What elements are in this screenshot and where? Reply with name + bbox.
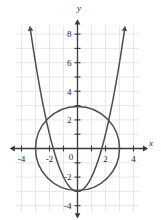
y-tick-label: 2 [67,115,72,125]
axes [10,19,149,218]
parabola-arrow-right-icon [122,26,128,32]
coordinate-plane-figure: -4-2248642-2-4 x y 0 [0,0,161,220]
graph-container: -4-2248642-2-4 x y 0 [0,0,161,220]
x-tick-label: 2 [103,154,108,164]
y-tick-label: 4 [67,87,72,97]
x-tick-label: 4 [131,154,136,164]
y-axis-label: y [76,3,81,13]
origin-label: 0 [69,152,74,162]
y-tick-label: -4 [64,201,72,211]
x-axis-label: x [148,138,153,148]
parabola-arrow-left-icon [28,26,34,32]
x-axis-arrow-left [10,146,15,152]
y-tick-label: 6 [67,58,72,68]
x-tick-label: -4 [18,154,26,164]
x-axis-arrow-right [143,146,148,152]
y-axis-arrow-up [75,19,81,24]
y-tick-label: 8 [67,29,72,39]
y-axis-arrow-down [75,213,81,218]
x-tick-label: -2 [46,154,54,164]
